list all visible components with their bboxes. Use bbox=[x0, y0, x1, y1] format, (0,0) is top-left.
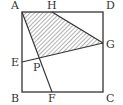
label-P: P bbox=[33, 62, 40, 73]
label-B: B bbox=[11, 93, 19, 104]
label-D: D bbox=[106, 0, 115, 11]
label-A: A bbox=[11, 0, 19, 11]
label-C: C bbox=[106, 93, 114, 104]
label-H: H bbox=[47, 0, 57, 11]
geometry-figure bbox=[0, 0, 123, 105]
label-F: F bbox=[48, 93, 56, 104]
label-G: G bbox=[106, 39, 115, 50]
label-E: E bbox=[11, 57, 19, 68]
